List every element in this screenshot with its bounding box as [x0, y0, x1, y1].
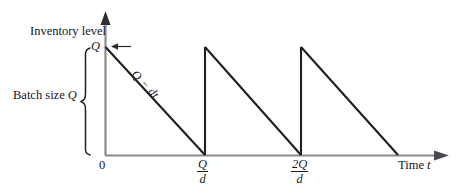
depletion-segment-1	[106, 47, 206, 155]
x-axis-label-text: Time	[398, 158, 427, 172]
batch-size-label: Batch size Q	[13, 89, 77, 102]
q-leader-arrowhead	[111, 43, 118, 50]
xtick-2q-over-d-denominator: d	[291, 173, 308, 186]
depletion-segment-2	[205, 47, 301, 155]
x-axis-label: Time t	[398, 159, 431, 172]
xtick-label-2q-over-d: 2Q d	[291, 158, 308, 186]
batch-size-label-var: Q	[68, 88, 77, 102]
xtick-q-over-d-numerator: Q	[197, 158, 208, 171]
y-axis-arrowhead	[101, 11, 111, 25]
batch-size-label-text: Batch size	[13, 88, 68, 102]
batch-size-brace	[81, 48, 91, 155]
x-axis-arrowhead	[434, 151, 449, 161]
xtick-q-over-d-denominator: d	[197, 173, 208, 186]
y-axis-label: Inventory level	[30, 25, 106, 38]
sawtooth-curve	[106, 47, 399, 155]
xtick-label-q-over-d: Q d	[197, 158, 208, 186]
y-peak-label: Q	[91, 40, 100, 53]
q-label-leader-arrow	[111, 43, 131, 50]
inventory-sawtooth-figure: Inventory level Q Batch size Q Q − dt 0 …	[0, 0, 461, 195]
xtick-2q-over-d-numerator: 2Q	[291, 158, 308, 171]
x-axis-label-var: t	[427, 158, 430, 172]
brace-path	[81, 48, 91, 155]
origin-label: 0	[99, 159, 105, 172]
depletion-segment-3	[301, 47, 398, 155]
